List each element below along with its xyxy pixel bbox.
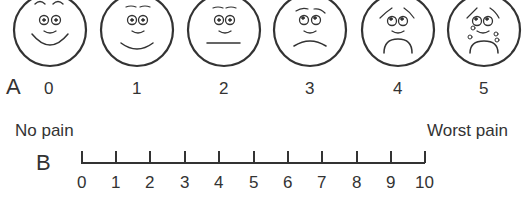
face-0-very-happy-icon	[14, 0, 86, 66]
tick-label-6: 6	[283, 174, 292, 191]
tick-label-9: 9	[386, 174, 395, 191]
tick-label-1: 1	[111, 174, 120, 191]
no-pain-anchor: No pain	[15, 122, 74, 139]
face-4-very-sad-icon	[362, 0, 434, 66]
face-2-neutral-icon	[188, 0, 260, 66]
scale-a-label: A	[6, 76, 21, 98]
numeric-rating-scale-line	[81, 151, 425, 163]
face-value-2: 2	[219, 80, 228, 97]
face-value-0: 0	[44, 80, 53, 97]
face-value-4: 4	[393, 80, 402, 97]
tick-label-7: 7	[317, 174, 326, 191]
worst-pain-anchor: Worst pain	[427, 122, 508, 139]
tick-label-0: 0	[77, 174, 86, 191]
tick-label-8: 8	[352, 174, 361, 191]
pain-scale-graphics	[0, 0, 526, 199]
face-value-5: 5	[479, 80, 488, 97]
scale-b-label: B	[36, 152, 51, 174]
tick-label-5: 5	[249, 174, 258, 191]
face-3-sad-icon	[274, 0, 346, 66]
tick-label-10: 10	[415, 174, 434, 191]
tick-label-2: 2	[145, 174, 154, 191]
face-value-3: 3	[305, 80, 314, 97]
tick-label-4: 4	[214, 174, 223, 191]
face-1-happy-icon	[101, 0, 173, 66]
tick-label-3: 3	[180, 174, 189, 191]
face-value-1: 1	[132, 80, 141, 97]
face-5-crying-icon	[448, 0, 520, 66]
